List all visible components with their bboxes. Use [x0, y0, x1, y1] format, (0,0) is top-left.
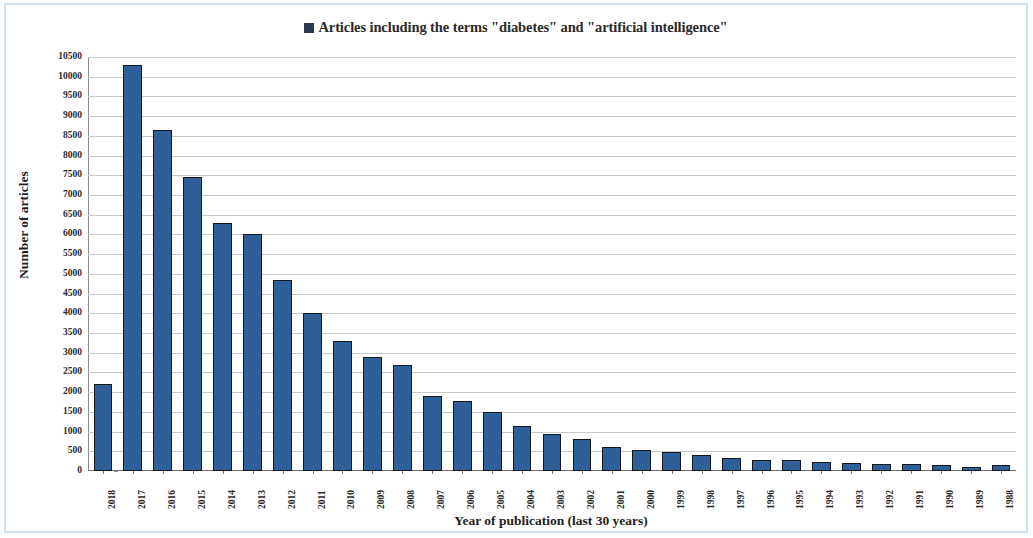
x-axis-tick-label-2012: 2012 [287, 490, 297, 509]
x-axis-tick-label-2018: 2018 [107, 490, 117, 509]
x-axis-tick-mark [372, 471, 373, 474]
x-axis-tick-mark [103, 471, 104, 474]
chart-title-text: Articles including the terms "diabetes" … [318, 19, 727, 35]
x-axis-tick-label-2011: 2011 [317, 491, 327, 509]
bar-1992[interactable] [872, 464, 891, 471]
x-axis-tick-label-2000: 2000 [646, 490, 656, 509]
y-axis-title: Number of articles [16, 125, 32, 325]
y-axis-tick-label: 3500 [36, 327, 82, 337]
chart-title: Articles including the terms "diabetes" … [6, 19, 1026, 36]
x-axis-tick-mark [223, 471, 224, 474]
x-axis-tick-mark [1001, 471, 1002, 474]
bar-1998[interactable] [692, 455, 711, 471]
y-axis-tick-label: 5000 [36, 268, 82, 278]
x-axis-tick-labels: 2018201720162015201420132012201120102009… [88, 471, 1016, 513]
bar-1999[interactable] [662, 452, 681, 471]
y-axis-tick-label: 3000 [36, 347, 82, 357]
bar-2009[interactable] [363, 357, 382, 471]
x-axis-tick-mark [402, 471, 403, 474]
gridline [88, 136, 1016, 137]
gridline [88, 96, 1016, 97]
x-axis-tick-label-2016: 2016 [167, 490, 177, 509]
bar-1991[interactable] [902, 464, 921, 471]
x-axis-tick-label-1999: 1999 [676, 490, 686, 509]
bar-2003[interactable] [543, 434, 562, 471]
x-axis-tick-mark [672, 471, 673, 474]
y-axis-tick-label: 4500 [36, 288, 82, 298]
x-axis-tick-label-1989: 1989 [975, 490, 985, 509]
x-axis-tick-label-1995: 1995 [795, 490, 805, 509]
y-axis-tick-label: 500 [36, 445, 82, 455]
legend-marker-icon [304, 23, 314, 33]
x-axis-tick-label-1991: 1991 [915, 490, 925, 509]
x-axis-tick-mark [702, 471, 703, 474]
x-axis-tick-mark [342, 471, 343, 474]
y-axis-tick-label: 0 [36, 465, 82, 475]
x-axis-tick-mark [552, 471, 553, 474]
x-axis-tick-mark [253, 471, 254, 474]
x-axis-tick-label-2015: 2015 [197, 490, 207, 509]
x-axis-tick-mark [193, 471, 194, 474]
plot-area [88, 57, 1016, 471]
x-axis-tick-label-2006: 2006 [466, 490, 476, 509]
x-axis-tick-label-1990: 1990 [945, 490, 955, 509]
y-axis-tick-label: 1500 [36, 406, 82, 416]
x-axis-tick-mark [971, 471, 972, 474]
x-axis-tick-label-2008: 2008 [406, 490, 416, 509]
x-axis-tick-mark [642, 471, 643, 474]
x-axis-tick-mark [462, 471, 463, 474]
x-axis-tick-label-2002: 2002 [586, 490, 596, 509]
bar-2001[interactable] [602, 447, 621, 471]
bar-2002[interactable] [573, 439, 592, 471]
x-axis-tick-label-2003: 2003 [556, 490, 566, 509]
x-axis-tick-label-2009: 2009 [376, 490, 386, 509]
bar-2012[interactable] [273, 280, 292, 471]
x-axis-tick-label-1993: 1993 [855, 490, 865, 509]
bar-2007[interactable] [423, 396, 442, 471]
bar-1996[interactable] [752, 460, 771, 471]
bar-2016[interactable] [153, 130, 172, 471]
y-axis-tick-labels: 0500100015002000250030003500400045005000… [32, 57, 82, 471]
y-axis-tick-label: 6500 [36, 209, 82, 219]
gridline [88, 156, 1016, 157]
bar-1997[interactable] [722, 458, 741, 471]
bar-1993[interactable] [842, 463, 861, 471]
bar-2000[interactable] [632, 450, 651, 471]
y-axis-tick-label: 10500 [36, 51, 82, 61]
y-axis-tick-label: 9500 [36, 90, 82, 100]
gridline [88, 215, 1016, 216]
y-axis-tick-label: 7500 [36, 169, 82, 179]
y-axis-tick-label: 2000 [36, 386, 82, 396]
bar-2008[interactable] [393, 365, 412, 471]
bar-2017[interactable] [123, 65, 142, 471]
bar-2018[interactable] [94, 384, 113, 471]
x-axis-tick-label-2013: 2013 [257, 490, 267, 509]
bar-2014[interactable] [213, 223, 232, 471]
bar-1994[interactable] [812, 462, 831, 471]
bar-2010[interactable] [333, 341, 352, 471]
x-axis-tick-mark [492, 471, 493, 474]
bar-2005[interactable] [483, 412, 502, 471]
y-axis-tick-label: 2500 [36, 366, 82, 376]
y-axis-tick-label: 8500 [36, 130, 82, 140]
gridline [88, 195, 1016, 196]
x-axis-tick-label-2014: 2014 [227, 490, 237, 509]
x-axis-tick-mark [522, 471, 523, 474]
bar-2015[interactable] [183, 177, 202, 471]
bar-2013[interactable] [243, 234, 262, 471]
x-axis-tick-label-2001: 2001 [616, 490, 626, 509]
x-axis-tick-mark [612, 471, 613, 474]
bar-1995[interactable] [782, 460, 801, 471]
gridline [88, 116, 1016, 117]
x-axis-tick-mark [911, 471, 912, 474]
x-axis-tick-mark [133, 471, 134, 474]
bar-2006[interactable] [453, 401, 472, 471]
bar-2004[interactable] [513, 426, 532, 471]
x-axis-tick-label-2017: 2017 [137, 490, 147, 509]
x-axis-tick-mark [762, 471, 763, 474]
bar-2011[interactable] [303, 313, 322, 471]
x-axis-tick-label-2005: 2005 [496, 490, 506, 509]
x-axis-tick-mark [163, 471, 164, 474]
x-axis-tick-label-2007: 2007 [436, 490, 446, 509]
x-axis-tick-mark [881, 471, 882, 474]
